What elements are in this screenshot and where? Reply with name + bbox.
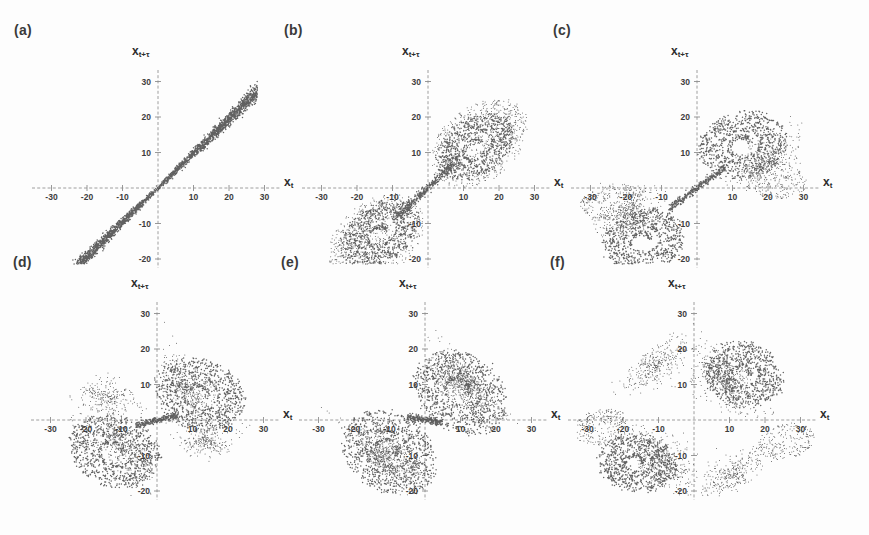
x-tick-label: -10 bbox=[116, 192, 129, 202]
panel-e-plot: -30-20-10102030302010-10-20-30 bbox=[267, 232, 557, 500]
y-axis-label-var: x bbox=[399, 276, 406, 290]
y-tick-label: -10 bbox=[139, 219, 152, 229]
x-tick-label: -20 bbox=[81, 192, 94, 202]
panel-b-plot: -30-20-10102030302010-10-20-30 bbox=[270, 0, 560, 268]
x-tick-label: 30 bbox=[796, 424, 806, 434]
scatter-points bbox=[321, 330, 518, 495]
y-tick-label: 30 bbox=[142, 77, 152, 87]
panel-c-label: (c) bbox=[553, 22, 571, 38]
y-tick-label: 10 bbox=[141, 380, 151, 390]
y-tick-label: 10 bbox=[412, 148, 422, 158]
panel-c-plot: -30-20-10102030302010-10-20-30 bbox=[539, 0, 829, 268]
y-axis-label: xt+τ bbox=[671, 44, 689, 59]
scatter-path bbox=[321, 330, 518, 495]
panel-b-label: (b) bbox=[284, 22, 303, 38]
x-tick-label: 10 bbox=[728, 192, 738, 202]
y-tick-label: -10 bbox=[678, 219, 691, 229]
x-tick-label: 20 bbox=[760, 424, 770, 434]
y-tick-label: -20 bbox=[138, 486, 151, 496]
y-tick-label: 20 bbox=[678, 344, 688, 354]
y-tick-label: 20 bbox=[681, 112, 691, 122]
x-axis-label-var: x bbox=[823, 175, 830, 189]
panel-f-label: (f) bbox=[550, 254, 565, 270]
y-tick-label: 30 bbox=[681, 77, 691, 87]
panel-e-label: (e) bbox=[281, 254, 299, 270]
x-tick-label: 30 bbox=[260, 192, 270, 202]
panel-a: (a)-30-20-10102030302010-10-20-30xt+τxt bbox=[0, 0, 290, 268]
panel-f: (f)-30-20-10102030302010-10-20-30xt+τxt bbox=[536, 232, 826, 500]
y-tick-label: 20 bbox=[412, 112, 422, 122]
panel-d-plot: -30-20-10102030302010-10-20-30 bbox=[0, 232, 289, 500]
y-tick-label: 10 bbox=[142, 148, 152, 158]
y-axis-label: xt+τ bbox=[402, 44, 420, 59]
x-tick-label: 10 bbox=[459, 192, 469, 202]
panel-b: (b)-30-20-10102030302010-10-20-30xt+τxt bbox=[270, 0, 560, 268]
x-tick-label: 20 bbox=[763, 192, 773, 202]
y-axis-label-var: x bbox=[132, 44, 139, 58]
panel-d: (d)-30-20-10102030302010-10-20-30xt+τxt bbox=[0, 232, 289, 500]
y-tick-label: 30 bbox=[141, 309, 151, 319]
y-axis-label-subscript: t+τ bbox=[409, 50, 420, 59]
y-tick-label: 20 bbox=[141, 344, 151, 354]
y-axis-label: xt+τ bbox=[399, 276, 417, 291]
x-tick-label: -30 bbox=[315, 192, 328, 202]
y-tick-label: 30 bbox=[412, 77, 422, 87]
y-tick-label: 10 bbox=[678, 380, 688, 390]
x-axis-label-subscript: t bbox=[830, 181, 833, 190]
y-axis-label: xt+τ bbox=[131, 276, 149, 291]
x-tick-label: 30 bbox=[799, 192, 809, 202]
x-tick-label: -30 bbox=[45, 192, 58, 202]
y-axis-label-var: x bbox=[402, 44, 409, 58]
scatter-points bbox=[68, 322, 250, 496]
panel-e: (e)-30-20-10102030302010-10-20-30xt+τxt bbox=[267, 232, 557, 500]
y-tick-label: 10 bbox=[681, 148, 691, 158]
y-axis-label-subscript: t+τ bbox=[139, 50, 150, 59]
x-tick-label: -20 bbox=[351, 192, 364, 202]
x-axis-label: xt bbox=[823, 175, 832, 190]
y-axis-label-var: x bbox=[131, 276, 138, 290]
y-axis-label-subscript: t+τ bbox=[138, 282, 149, 291]
y-axis-label-subscript: t+τ bbox=[678, 50, 689, 59]
x-tick-label: -30 bbox=[44, 424, 57, 434]
x-axis-label-subscript: t bbox=[827, 413, 830, 422]
x-tick-label: -10 bbox=[652, 424, 665, 434]
panel-f-plot: -30-20-10102030302010-10-20-30 bbox=[536, 232, 826, 500]
panel-a-plot: -30-20-10102030302010-10-20-30 bbox=[0, 0, 290, 268]
panel-d-label: (d) bbox=[13, 254, 32, 270]
x-tick-label: 20 bbox=[494, 192, 504, 202]
x-axis-label-var: x bbox=[820, 407, 827, 421]
y-tick-label: 30 bbox=[409, 309, 419, 319]
x-tick-label: -10 bbox=[655, 192, 668, 202]
scatter-path bbox=[68, 322, 250, 496]
x-axis-label: xt bbox=[820, 407, 829, 422]
x-tick-label: -30 bbox=[581, 424, 594, 434]
figure-canvas: (a)-30-20-10102030302010-10-20-30xt+τxt(… bbox=[0, 0, 869, 535]
x-tick-label: 20 bbox=[224, 192, 234, 202]
y-axis-label-var: x bbox=[671, 44, 678, 58]
y-axis-label-subscript: t+τ bbox=[406, 282, 417, 291]
y-tick-label: 20 bbox=[142, 112, 152, 122]
panel-c: (c)-30-20-10102030302010-10-20-30xt+τxt bbox=[539, 0, 829, 268]
y-axis-label: xt+τ bbox=[132, 44, 150, 59]
x-tick-label: 10 bbox=[189, 192, 199, 202]
y-axis-label: xt+τ bbox=[668, 276, 686, 291]
y-axis-label-subscript: t+τ bbox=[675, 282, 686, 291]
panel-a-label: (a) bbox=[14, 22, 32, 38]
y-tick-label: 20 bbox=[409, 344, 419, 354]
y-axis-label-var: x bbox=[668, 276, 675, 290]
x-tick-label: 10 bbox=[725, 424, 735, 434]
y-tick-label: 30 bbox=[678, 309, 688, 319]
x-tick-label: -30 bbox=[312, 424, 325, 434]
